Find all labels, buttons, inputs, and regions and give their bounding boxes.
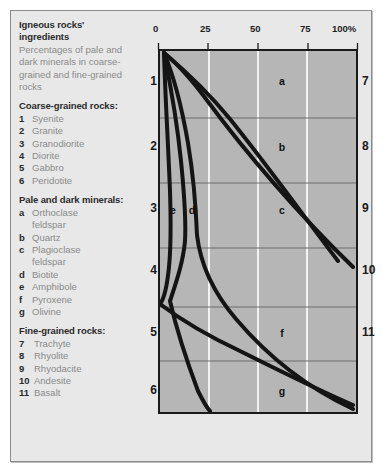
- legend-item-label: Gabbro: [32, 162, 131, 174]
- legend-item-g-olivine: g Olivine: [19, 306, 131, 318]
- legend-item-d-biotite: d Biotite: [19, 269, 131, 281]
- figure-title: Igneous rocks' ingredients: [19, 19, 131, 44]
- legend-item-11-basalt: 11 Basalt: [19, 387, 131, 399]
- figure-card: Igneous rocks' ingredients Percentages o…: [10, 10, 372, 462]
- legend-item-key: e: [19, 281, 32, 293]
- legend-item-9-rhyodacite: 9 Rhyodacite: [19, 363, 131, 375]
- legend-item-key: b: [19, 232, 32, 244]
- legend-item-label: Diorite: [32, 150, 131, 162]
- legend-item-label: Peridotite: [32, 175, 131, 187]
- legend-item-key: 10: [19, 375, 34, 387]
- legend-item-key: 7: [19, 338, 34, 350]
- row-number-4: 4: [148, 263, 157, 277]
- legend-item-key: 3: [19, 138, 32, 150]
- legend-section-minerals: Pale and dark minerals: a Orthoclase fel…: [19, 194, 131, 318]
- legend-section-fine-grained: Fine-grained rocks: 7 Trachyte 8 Rhyolit…: [19, 325, 131, 399]
- figure-root: Igneous rocks' ingredients Percentages o…: [0, 0, 390, 475]
- x-tick-label-100: 100%: [332, 23, 356, 34]
- chart-plot-area: a b c d e f g: [158, 49, 358, 414]
- x-tick-label-25: 25: [200, 23, 211, 34]
- legend-item-label: Rhyolite: [34, 350, 131, 362]
- row-number-11: 11: [362, 325, 380, 339]
- legend-item-4-diorite: 4 Diorite: [19, 150, 131, 162]
- row-number-9: 9: [362, 201, 380, 215]
- curve-e-f-boundary: [160, 53, 171, 304]
- legend-item-continuation: feldspar: [19, 219, 131, 231]
- legend-item-label: Basalt: [34, 387, 131, 399]
- legend-item-key: 1: [19, 113, 32, 125]
- legend-section-heading: Fine-grained rocks:: [19, 325, 131, 337]
- row-number-7: 7: [362, 74, 380, 88]
- legend-item-2-granite: 2 Granite: [19, 125, 131, 137]
- legend-item-label: Granodiorite: [32, 138, 131, 150]
- row-number-3: 3: [148, 201, 157, 215]
- legend-item-key: 4: [19, 150, 32, 162]
- legend-item-label: Olivine: [32, 306, 131, 318]
- legend-item-key: c: [19, 244, 32, 256]
- legend-item-key: 5: [19, 162, 32, 174]
- legend-section-heading: Coarse-grained rocks:: [19, 100, 131, 112]
- curve-f-g-boundary: [160, 304, 353, 405]
- band-label-a: a: [279, 75, 285, 87]
- legend-item-1-syenite: 1 Syenite: [19, 113, 131, 125]
- legend-item-key: f: [19, 294, 32, 306]
- legend-section-heading: Pale and dark minerals:: [19, 194, 131, 206]
- mineral-composition-curves: a b c d e f g: [160, 51, 356, 412]
- band-label-d: d: [189, 204, 195, 216]
- legend-item-key: 6: [19, 175, 32, 187]
- legend-item-label: Amphibole: [32, 281, 131, 293]
- row-number-5: 5: [148, 325, 157, 339]
- x-axis-tick-labels: 0 25 50 75 100%: [148, 19, 364, 41]
- row-number-6: 6: [148, 383, 157, 397]
- legend-item-label: Trachyte: [34, 338, 131, 350]
- legend-item-a-orthoclase-feldspar: a Orthoclase: [19, 207, 131, 219]
- x-tick-label-50: 50: [250, 23, 261, 34]
- legend-item-f-pyroxene: f Pyroxene: [19, 294, 131, 306]
- row-number-10: 10: [362, 263, 380, 277]
- legend-item-key: g: [19, 306, 32, 318]
- legend-item-e-amphibole: e Amphibole: [19, 281, 131, 293]
- legend-item-label: Andesite: [34, 375, 131, 387]
- legend-item-label: Rhyodacite: [34, 363, 131, 375]
- x-tick-label-75: 75: [300, 23, 311, 34]
- legend-item-10-andesite: 10 Andesite: [19, 375, 131, 387]
- legend-item-label: Biotite: [32, 269, 131, 281]
- legend-item-b-quartz: b Quartz: [19, 232, 131, 244]
- legend-item-key: 2: [19, 125, 32, 137]
- legend-item-continuation: feldspar: [19, 256, 131, 268]
- legend-item-key: d: [19, 269, 32, 281]
- band-label-c: c: [279, 204, 285, 216]
- legend-item-5-gabbro: 5 Gabbro: [19, 162, 131, 174]
- legend-item-label: Pyroxene: [32, 294, 131, 306]
- chart-panel: 0 25 50 75 100% 1 2 3 4 5 6 7: [148, 19, 364, 455]
- legend-section-coarse-grained: Coarse-grained rocks: 1 Syenite 2 Granit…: [19, 100, 131, 187]
- legend-item-label: Orthoclase: [32, 207, 131, 219]
- legend-item-c-plagioclase-feldspar: c Plagioclase: [19, 244, 131, 256]
- row-number-8: 8: [362, 139, 380, 153]
- legend-item-3-granodiorite: 3 Granodiorite: [19, 138, 131, 150]
- row-number-2: 2: [148, 139, 157, 153]
- band-label-f: f: [280, 327, 284, 339]
- legend-item-key: 11: [19, 387, 34, 399]
- legend-item-key: 8: [19, 350, 34, 362]
- legend-panel: Igneous rocks' ingredients Percentages o…: [19, 19, 131, 400]
- legend-item-label: Granite: [32, 125, 131, 137]
- legend-item-7-trachyte: 7 Trachyte: [19, 338, 131, 350]
- legend-intro-block: Igneous rocks' ingredients Percentages o…: [19, 19, 131, 93]
- legend-item-label: Plagioclase: [32, 244, 131, 256]
- legend-item-label: Quartz: [32, 232, 131, 244]
- legend-item-key: a: [19, 207, 32, 219]
- band-label-g: g: [279, 385, 285, 397]
- legend-item-key: 9: [19, 363, 34, 375]
- legend-item-label: Syenite: [32, 113, 131, 125]
- legend-item-8-rhyolite: 8 Rhyolite: [19, 350, 131, 362]
- band-label-e: e: [170, 204, 176, 216]
- figure-description: Percentages of pale and dark minerals in…: [19, 44, 131, 94]
- legend-item-6-peridotite: 6 Peridotite: [19, 175, 131, 187]
- row-number-1: 1: [148, 74, 157, 88]
- band-label-b: b: [279, 141, 285, 153]
- boundary-curves: [160, 53, 353, 411]
- x-tick-label-0: 0: [153, 23, 158, 34]
- band-letter-labels: a b c d e f g: [170, 75, 285, 397]
